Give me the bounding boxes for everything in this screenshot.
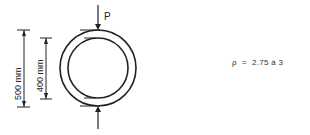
load-label: P	[104, 11, 111, 22]
outer-dimension-label: 500 mm	[13, 67, 23, 100]
equals-sign: =	[242, 58, 247, 67]
load-arrow-top-icon	[95, 5, 101, 30]
load-arrow-bottom-icon	[95, 106, 101, 129]
ring-diagram: P 500 mm 400 mm	[0, 0, 310, 135]
density-formula: ρ = 2.75 à 3	[232, 58, 283, 67]
inner-dimension-label: 400 mm	[35, 59, 45, 92]
rho-symbol: ρ	[232, 58, 237, 67]
formula-value: 2.75 à 3	[252, 58, 283, 67]
outer-circle	[60, 30, 136, 106]
inner-circle	[68, 38, 128, 98]
